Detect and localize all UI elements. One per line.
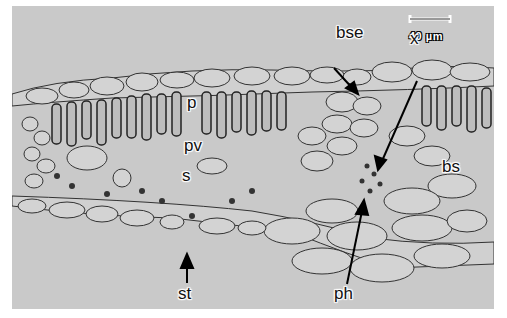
label-bse: bse [336, 24, 363, 41]
label-ph: ph [334, 285, 353, 302]
label-bs: bs [442, 158, 460, 175]
micrograph-plate: 40 µm bse x p pv s bs st ph [12, 6, 494, 309]
label-st: st [178, 285, 191, 302]
label-pv: pv [184, 137, 202, 154]
label-p: p [187, 94, 196, 111]
label-x: x [410, 30, 419, 47]
label-s: s [182, 167, 191, 184]
leaf-section-drawing [12, 6, 494, 309]
